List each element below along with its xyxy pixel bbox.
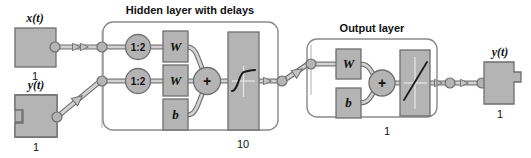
hidden-layer-title: Hidden layer with delays (126, 4, 254, 16)
output-layer-size: 1 (384, 125, 390, 137)
delay-block-2-label: 1:2 (131, 76, 146, 87)
output-weight-block[interactable]: W (336, 49, 361, 79)
delay-block-1[interactable]: 1:2 (126, 35, 151, 60)
delay-block-1-label: 1:2 (131, 42, 146, 53)
node-x-out (50, 42, 60, 52)
output-bias-label: b (345, 95, 352, 110)
hidden-sum-block[interactable]: + (194, 68, 221, 95)
output-sum-label: + (378, 75, 386, 91)
hidden-weight-2-label: W (170, 73, 183, 88)
wire-y-to-hidden (57, 83, 98, 117)
node-hidden-out (277, 76, 287, 86)
output-weight-label: W (343, 56, 356, 71)
hidden-weight-block-1[interactable]: W (163, 31, 188, 62)
network-diagram-svg: x(t) 1 y(t) 1 Hidden layer with delays (0, 0, 531, 158)
node-output-out (445, 78, 455, 88)
hidden-bias-block[interactable]: b (163, 99, 188, 130)
delay-block-2[interactable]: 1:2 (126, 69, 151, 94)
hidden-weight-1-label: W (170, 39, 183, 54)
hidden-weight-block-2[interactable]: W (163, 65, 188, 96)
output-block-y[interactable]: y(t) 1 (484, 45, 521, 120)
hidden-layer-size: 10 (237, 138, 249, 150)
output-bias-block[interactable]: b (336, 88, 361, 118)
output-y-label: y(t) (490, 45, 509, 59)
input-y-label: y(t) (26, 78, 45, 92)
input-y-size: 1 (33, 141, 39, 153)
output-sum-block[interactable]: + (369, 70, 395, 96)
network-diagram-canvas: x(t) 1 y(t) 1 Hidden layer with delays (0, 0, 531, 158)
output-layer-title: Output layer (340, 22, 406, 34)
node-y-out (52, 112, 62, 122)
hidden-bias-label: b (172, 107, 179, 122)
linear-transfer-function[interactable] (400, 50, 430, 116)
node-hidden-in-1 (97, 42, 107, 52)
sigmoid-transfer-function[interactable] (228, 32, 259, 130)
output-y-size: 1 (497, 108, 503, 120)
node-hidden-in-2 (97, 76, 107, 86)
hidden-sum-label: + (203, 73, 211, 89)
input-x-label: x(t) (25, 11, 43, 25)
input-block-y[interactable]: y(t) 1 (15, 78, 57, 153)
hidden-layer[interactable]: Hidden layer with delays 1:2 1:2 W W b (126, 4, 260, 150)
node-output-in (306, 59, 316, 69)
